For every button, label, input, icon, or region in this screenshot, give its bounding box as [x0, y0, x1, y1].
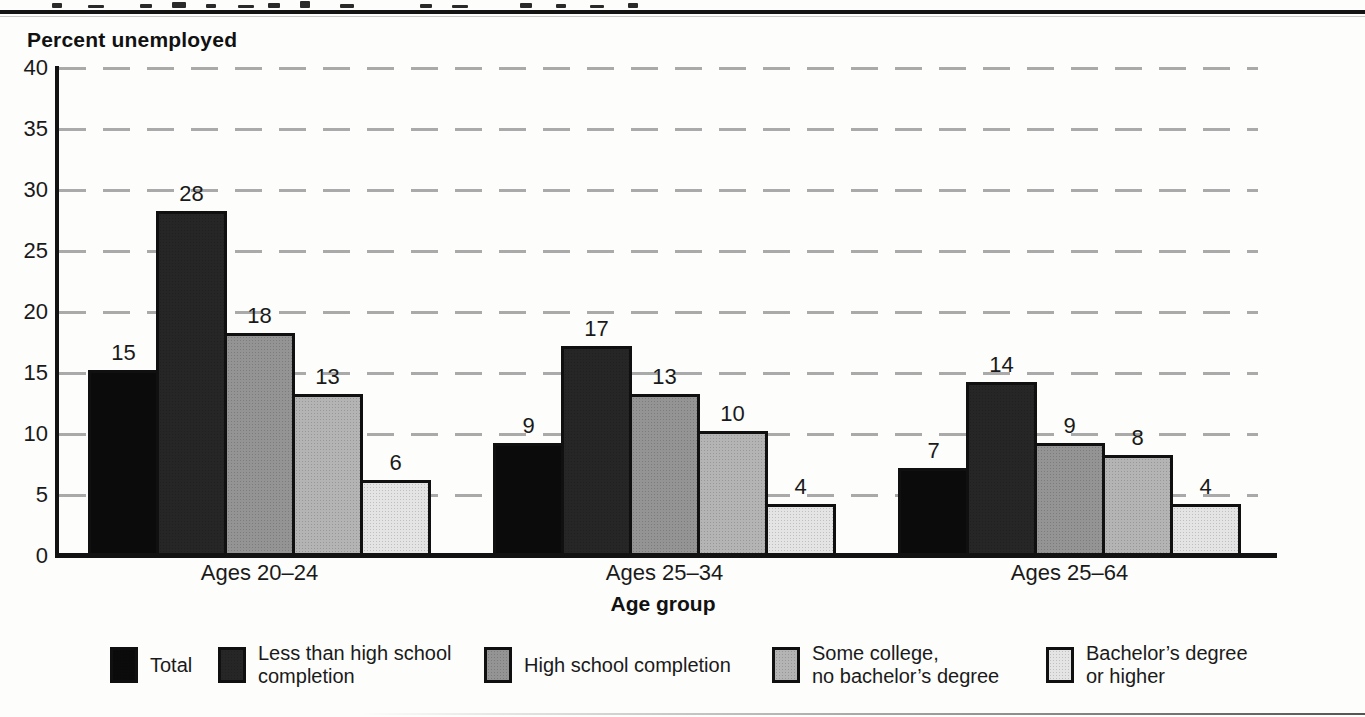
- legend-label-line: or higher: [1086, 665, 1248, 688]
- y-tick-label: 40: [0, 55, 48, 81]
- page-edge-artifact: [360, 713, 1365, 715]
- bar: [360, 480, 431, 556]
- bar-value-label: 13: [629, 364, 700, 390]
- y-tick-label: 35: [0, 116, 48, 142]
- gridline: [59, 250, 1258, 253]
- bar-value-label: 15: [88, 340, 159, 366]
- bar: [629, 394, 700, 556]
- legend-label: Total: [150, 654, 192, 677]
- legend-label-line: Total: [150, 654, 192, 677]
- clipped-text-fragment: [268, 3, 280, 8]
- bar-value-label: 14: [966, 352, 1037, 378]
- bar: [292, 394, 363, 556]
- legend-item: Total: [110, 643, 192, 687]
- bar-value-label: 9: [1034, 413, 1105, 439]
- gridline: [59, 67, 1258, 70]
- bar-value-label: 7: [898, 438, 969, 464]
- y-tick-label: 20: [0, 299, 48, 325]
- category-label: Ages 25–64: [960, 560, 1180, 586]
- y-tick-label: 0: [0, 543, 48, 569]
- legend-item: High school completion: [484, 643, 731, 687]
- category-label: Ages 20–24: [150, 560, 370, 586]
- clipped-text-fragment: [238, 5, 254, 8]
- legend-item: Some college,no bachelor’s degree: [772, 643, 999, 687]
- legend-swatch: [1046, 647, 1074, 683]
- clipped-text-fragment: [206, 4, 216, 8]
- bar: [697, 431, 768, 556]
- legend-swatch: [484, 647, 512, 683]
- bar-value-label: 28: [156, 181, 227, 207]
- bar: [1102, 455, 1173, 556]
- bar: [898, 468, 969, 556]
- bar: [1170, 504, 1241, 556]
- bar: [224, 333, 295, 556]
- legend-swatch: [110, 647, 138, 683]
- legend-label-line: High school completion: [524, 654, 731, 677]
- legend-label: Bachelor’s degreeor higher: [1086, 642, 1248, 688]
- header-rule: [0, 10, 1365, 14]
- legend-item: Bachelor’s degreeor higher: [1046, 643, 1248, 687]
- bar-value-label: 17: [561, 316, 632, 342]
- legend-label-line: completion: [258, 665, 451, 688]
- clipped-text-fragment: [556, 4, 566, 8]
- legend-label-line: Some college,: [812, 642, 999, 665]
- bar-value-label: 9: [493, 413, 564, 439]
- y-tick-label: 10: [0, 421, 48, 447]
- header-rule-echo: [0, 16, 1365, 17]
- legend-label-line: Bachelor’s degree: [1086, 642, 1248, 665]
- legend-label: Some college,no bachelor’s degree: [812, 642, 999, 688]
- bar-value-label: 8: [1102, 425, 1173, 451]
- bar: [1034, 443, 1105, 556]
- clipped-text-fragment: [88, 5, 104, 8]
- bar: [561, 346, 632, 556]
- bar-value-label: 4: [1170, 474, 1241, 500]
- clipped-text-fragment: [140, 4, 152, 8]
- legend-swatch: [218, 647, 246, 683]
- x-axis-baseline: [55, 553, 1277, 558]
- bar: [88, 370, 159, 556]
- x-axis-title: Age group: [553, 592, 773, 616]
- legend-label-line: no bachelor’s degree: [812, 665, 999, 688]
- bar: [966, 382, 1037, 556]
- category-label: Ages 25–34: [555, 560, 775, 586]
- y-tick-label: 30: [0, 177, 48, 203]
- legend-item: Less than high schoolcompletion: [218, 643, 451, 687]
- y-tick-label: 15: [0, 360, 48, 386]
- clipped-text-fragment: [300, 1, 310, 8]
- clipped-text-fragment: [452, 5, 468, 8]
- y-tick-label: 25: [0, 238, 48, 264]
- clipped-text-fragment: [172, 2, 186, 8]
- bar-value-label: 6: [360, 450, 431, 476]
- gridline: [59, 128, 1258, 131]
- clipped-text-fragment: [628, 3, 638, 8]
- clipped-text-fragment: [590, 5, 604, 8]
- clipped-text-fragment: [340, 4, 354, 8]
- bar: [493, 443, 564, 556]
- legend-label: Less than high schoolcompletion: [258, 642, 451, 688]
- scanned-chart-page: Percent unemployed 051015202530354015972…: [0, 0, 1365, 717]
- legend-label-line: Less than high school: [258, 642, 451, 665]
- legend-swatch: [772, 647, 800, 683]
- clipped-text-fragment: [420, 4, 432, 8]
- bar-value-label: 13: [292, 364, 363, 390]
- bar-value-label: 10: [697, 401, 768, 427]
- bar: [765, 504, 836, 556]
- legend-label: High school completion: [524, 654, 731, 677]
- gridline: [59, 189, 1258, 192]
- y-tick-label: 5: [0, 482, 48, 508]
- clipped-text-fragment: [520, 3, 532, 8]
- y-axis-line: [55, 66, 59, 556]
- bar: [156, 211, 227, 556]
- y-axis-title: Percent unemployed: [27, 28, 237, 52]
- bar-value-label: 18: [224, 303, 295, 329]
- bar-value-label: 4: [765, 474, 836, 500]
- clipped-text-fragment: [52, 3, 62, 8]
